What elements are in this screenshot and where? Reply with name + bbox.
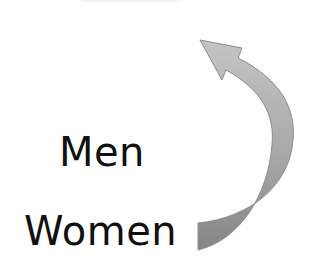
men-label: Men xyxy=(59,132,145,172)
women-label: Women xyxy=(24,211,177,251)
